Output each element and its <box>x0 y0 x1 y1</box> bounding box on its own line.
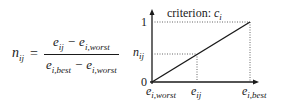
x-tick-worst: ei,worst <box>146 84 176 100</box>
x-tick-eij: eij <box>191 84 201 100</box>
x-tick-best: ei,best <box>242 84 267 100</box>
y-tick-one: 1 <box>141 15 147 30</box>
y-axis-arrow-icon <box>150 9 155 15</box>
normalization-line <box>152 22 250 82</box>
chart-title: criterion: ci <box>167 6 222 22</box>
y-tick-nij: nij <box>133 45 144 61</box>
